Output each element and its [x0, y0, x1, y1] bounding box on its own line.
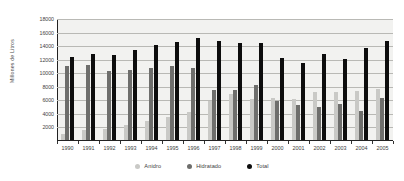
plot-area: 2000400060008000100001200014000160001800…: [57, 19, 393, 141]
x-axis-tick-label: 1993: [125, 145, 137, 151]
bar-chart-figure: Millones de Litros 200040006000800010000…: [0, 0, 404, 181]
bar-group: [208, 19, 222, 141]
bar-total-2001: [301, 63, 305, 141]
x-axis-tick: [225, 141, 226, 144]
y-axis-tick-label: 18000: [40, 16, 54, 22]
x-axis-tick: [330, 141, 331, 144]
x-axis-tick: [309, 141, 310, 144]
legend-swatch-icon: [135, 164, 140, 169]
bar-hidratado-2001: [296, 105, 300, 141]
x-axis-tick-label: 2003: [335, 145, 347, 151]
x-axis-tick: [183, 141, 184, 144]
bar-group: [376, 19, 390, 141]
x-axis-tick: [162, 141, 163, 144]
x-axis-tick-label: 2001: [293, 145, 305, 151]
bar-total-1994: [154, 45, 158, 141]
bar-total-2002: [322, 54, 326, 141]
bar-hidratado-2003: [338, 104, 342, 141]
x-axis-tick: [120, 141, 121, 144]
bar-anidro-2002: [313, 92, 317, 141]
bar-anidro-2003: [334, 92, 338, 141]
x-axis-tick-label: 1991: [83, 145, 95, 151]
bar-group: [82, 19, 96, 141]
x-axis-tick: [99, 141, 100, 144]
x-axis-tick: [351, 141, 352, 144]
bar-group: [355, 19, 369, 141]
legend-label: Anidro: [144, 163, 161, 169]
bar-hidratado-1992: [107, 71, 111, 141]
bar-group: [334, 19, 348, 141]
bar-total-2004: [364, 48, 368, 141]
x-axis-tick: [393, 141, 394, 144]
y-axis-tick-label: 16000: [40, 30, 54, 36]
chart-legend: AnidroHidratadoTotal: [0, 163, 404, 169]
bar-hidratado-1995: [170, 66, 174, 141]
bar-total-1996: [196, 38, 200, 141]
bar-anidro-1999: [250, 99, 254, 141]
bar-group: [250, 19, 264, 141]
bar-anidro-1998: [229, 94, 233, 141]
bar-anidro-1996: [187, 112, 191, 141]
y-axis-tick-label: 12000: [40, 57, 54, 63]
bar-anidro-1995: [166, 117, 170, 141]
bar-anidro-2004: [355, 91, 359, 141]
y-axis-tick-label: 8000: [42, 84, 54, 90]
bar-total-1997: [217, 41, 221, 141]
bar-hidratado-1991: [86, 65, 90, 141]
bar-total-1998: [238, 43, 242, 141]
legend-item-hidratado[interactable]: Hidratado: [187, 163, 221, 169]
x-axis-line: [57, 140, 393, 141]
bar-group: [61, 19, 75, 141]
bar-group: [124, 19, 138, 141]
x-axis-tick-label: 1999: [251, 145, 263, 151]
x-axis-tick: [372, 141, 373, 144]
bar-hidratado-2000: [275, 101, 279, 141]
bar-anidro-1994: [145, 121, 149, 141]
bar-total-1990: [70, 57, 74, 141]
bar-total-1999: [259, 43, 263, 141]
bar-hidratado-2002: [317, 107, 321, 141]
x-axis-tick-label: 1996: [188, 145, 200, 151]
x-axis-tick-label: 2000: [272, 145, 284, 151]
bar-hidratado-2005: [380, 98, 384, 141]
x-axis-tick: [288, 141, 289, 144]
legend-label: Total: [256, 163, 268, 169]
x-axis-tick: [204, 141, 205, 144]
bar-total-2005: [385, 41, 389, 141]
bar-group: [313, 19, 327, 141]
x-axis-tick-label: 2002: [314, 145, 326, 151]
legend-item-total[interactable]: Total: [247, 163, 268, 169]
bar-hidratado-1998: [233, 90, 237, 142]
x-axis-tick-label: 1990: [62, 145, 74, 151]
bar-total-1991: [91, 54, 95, 141]
x-axis-tick: [246, 141, 247, 144]
x-axis-tick-label: 1992: [104, 145, 116, 151]
bar-anidro-1997: [208, 101, 212, 141]
y-axis-tick-label: 10000: [40, 70, 54, 76]
x-axis-tick-label: 2004: [356, 145, 368, 151]
legend-swatch-icon: [247, 164, 252, 169]
bar-total-2000: [280, 58, 284, 141]
y-axis-tick-label: 4000: [42, 111, 54, 117]
legend-item-anidro[interactable]: Anidro: [135, 163, 161, 169]
bar-anidro-1993: [124, 125, 128, 141]
bar-anidro-2001: [292, 99, 296, 141]
y-axis-title: Millones de Litros: [9, 23, 15, 99]
bar-group: [271, 19, 285, 141]
x-axis-tick-label: 1998: [230, 145, 242, 151]
x-axis-tick: [57, 141, 58, 144]
bar-hidratado-1997: [212, 90, 216, 142]
bar-hidratado-2004: [359, 111, 363, 142]
bar-hidratado-1994: [149, 68, 153, 141]
x-axis-tick-label: 1997: [209, 145, 221, 151]
bar-total-1993: [133, 50, 137, 141]
bar-hidratado-1993: [128, 70, 132, 141]
bar-group: [187, 19, 201, 141]
bar-anidro-2000: [271, 98, 275, 141]
bar-group: [103, 19, 117, 141]
y-axis-tick-label: 6000: [42, 97, 54, 103]
bar-total-1995: [175, 42, 179, 141]
bar-hidratado-1999: [254, 85, 258, 141]
y-axis-tick-label: 14000: [40, 43, 54, 49]
bar-group: [145, 19, 159, 141]
